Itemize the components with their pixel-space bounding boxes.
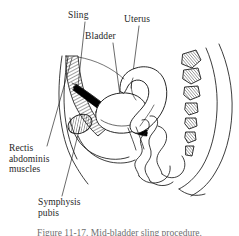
- label-rectis-abdominis-muscles: Rectis abdominis muscles: [9, 143, 49, 175]
- label-symphysis-line-1: Symphysis: [38, 197, 81, 208]
- label-symphysis-line-2: pubis: [38, 208, 81, 219]
- label-rectis-line-3: muscles: [9, 164, 49, 175]
- label-rectis-line-1: Rectis: [9, 143, 49, 154]
- label-bladder: Bladder: [85, 31, 116, 42]
- perineum-contour: [78, 136, 135, 163]
- label-symphysis-pubis: Symphysis pubis: [38, 197, 81, 218]
- anatomical-diagram: [0, 0, 239, 236]
- sacrum-coccyx-vertebrae: [182, 50, 201, 156]
- label-sling: Sling: [68, 10, 89, 21]
- leader-line-symphysis: [62, 127, 80, 196]
- figure-caption: Figure 11-17. Mid-bladder sling procedur…: [0, 228, 239, 236]
- label-rectis-line-2: abdominis: [9, 154, 49, 165]
- label-uterus: Uterus: [124, 14, 150, 25]
- figure-container: Sling Bladder Uterus Rectis abdominis mu…: [0, 0, 239, 236]
